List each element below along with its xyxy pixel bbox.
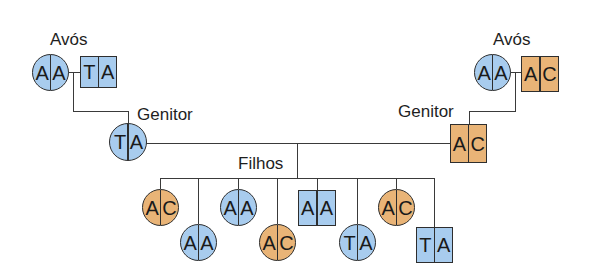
allele-1: T (417, 228, 434, 262)
allele-2: C (161, 190, 178, 225)
child-drop-5 (317, 178, 318, 190)
child-drop-8 (434, 178, 435, 227)
descent-line-parents (297, 143, 298, 179)
grandfather-left: T A (80, 56, 117, 88)
child-drop-1 (160, 178, 161, 189)
child-7: A C (378, 189, 415, 226)
grandfather-right: A C (521, 56, 559, 92)
allele-1: A (522, 57, 539, 91)
allele-2: A (199, 225, 216, 260)
child-8: T A (416, 227, 453, 263)
allele-1: A (451, 125, 468, 162)
child-3: A A (220, 189, 257, 226)
child-drop-3 (238, 178, 239, 189)
child-1: A C (142, 189, 179, 226)
allele-1: A (299, 191, 316, 225)
allele-1: A (33, 55, 50, 90)
allele-1: A (475, 55, 492, 90)
child-drop-2 (198, 178, 199, 224)
allele-1: T (81, 57, 98, 87)
label-parent-right: Genitor (398, 103, 454, 120)
descent-line-grandparents-right (515, 72, 516, 111)
allele-1: A (260, 225, 277, 260)
parent-right-father: A C (450, 124, 487, 163)
label-parent-left: Genitor (137, 106, 193, 123)
child-drop-4 (277, 178, 278, 224)
allele-2: A (318, 191, 335, 225)
pedigree-diagram: Avós Avós Genitor Genitor Filhos A A T A… (0, 0, 590, 277)
sibship-line (160, 178, 435, 179)
child-drop-6 (357, 178, 358, 224)
descent-line-grandparents-left-h (73, 111, 129, 112)
allele-1: T (340, 225, 357, 260)
grandmother-left: A A (32, 54, 69, 91)
allele-1: A (221, 190, 238, 225)
child-6: T A (339, 224, 376, 261)
descent-line-grandparents-left (73, 72, 74, 111)
allele-2: C (469, 125, 486, 162)
allele-2: A (99, 57, 116, 87)
label-grandparents-right: Avós (493, 31, 531, 48)
allele-2: A (493, 55, 510, 90)
descent-line-to-parent-left (128, 111, 129, 123)
allele-1: T (110, 124, 127, 160)
child-2: A A (180, 224, 217, 261)
label-children: Filhos (238, 155, 283, 172)
allele-2: C (541, 57, 558, 91)
allele-2: A (239, 190, 256, 225)
child-5: A A (298, 190, 336, 226)
descent-line-grandparents-right-h (469, 111, 516, 112)
allele-1: A (181, 225, 198, 260)
descent-line-to-parent-right (469, 111, 470, 124)
allele-2: C (397, 190, 414, 225)
allele-1: A (143, 190, 160, 225)
allele-2: A (51, 55, 68, 90)
allele-2: C (278, 225, 295, 260)
allele-2: A (129, 124, 146, 160)
allele-1: A (379, 190, 396, 225)
parent-left-mother: T A (109, 123, 147, 161)
child-drop-7 (396, 178, 397, 189)
label-grandparents-left: Avós (50, 31, 88, 48)
grandmother-right: A A (474, 54, 511, 91)
allele-2: A (358, 225, 375, 260)
allele-2: A (435, 228, 452, 262)
child-4: A C (259, 224, 296, 261)
